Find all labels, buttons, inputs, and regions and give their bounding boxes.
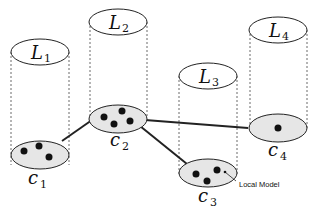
cylinder-L3: L 3 xyxy=(179,63,237,175)
diagram-canvas: L 1 L 2 L 3 L 4 c 1 xyxy=(0,0,312,208)
label-L1-sub: 1 xyxy=(44,52,51,65)
cluster-c3: c 3 xyxy=(179,159,237,208)
label-L2: L xyxy=(108,12,121,33)
cylinder-L2: L 2 xyxy=(89,9,147,118)
label-c3: c xyxy=(198,185,208,206)
label-c2-sub: 2 xyxy=(122,140,129,153)
cluster-c1: c 1 xyxy=(11,141,69,191)
edges xyxy=(62,120,248,164)
label-L4: L xyxy=(268,20,281,41)
label-L1: L xyxy=(30,42,43,63)
label-L4-sub: 4 xyxy=(282,30,289,43)
cluster-c2: c 2 xyxy=(89,105,147,153)
label-c4-sub: 4 xyxy=(280,150,287,163)
local-model-label: Local Model xyxy=(239,180,280,189)
cluster-c4: c 4 xyxy=(249,114,307,163)
label-c3-sub: 3 xyxy=(210,196,217,208)
label-c1-sub: 1 xyxy=(40,178,47,191)
label-L3: L xyxy=(198,66,211,87)
label-c1: c xyxy=(28,167,38,188)
label-c4: c xyxy=(268,139,278,160)
label-c2: c xyxy=(110,129,120,150)
label-L3-sub: 3 xyxy=(212,76,219,89)
cylinder-L4: L 4 xyxy=(249,17,307,128)
label-L2-sub: 2 xyxy=(122,22,129,35)
